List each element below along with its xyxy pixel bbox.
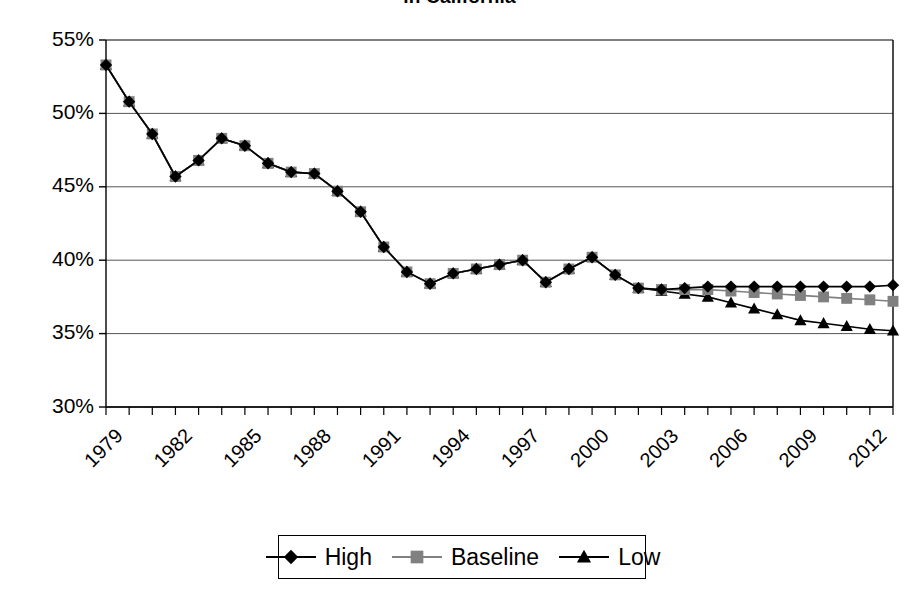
diamond-marker xyxy=(887,279,899,291)
x-axis-tick-label: 1985 xyxy=(219,424,266,471)
x-axis-tick-label: 2003 xyxy=(635,424,682,471)
legend-item-high[interactable]: High xyxy=(264,544,372,571)
square-marker xyxy=(888,296,899,307)
diamond-marker xyxy=(283,550,297,564)
y-axis-tick-label: 50% xyxy=(52,100,94,123)
x-axis-tick-label: 2006 xyxy=(705,424,752,471)
chart-legend: HighBaselineLow xyxy=(278,535,646,579)
square-marker xyxy=(841,293,852,304)
x-axis-tick-label: 1994 xyxy=(427,424,474,471)
legend-item-baseline[interactable]: Baseline xyxy=(390,544,539,571)
diamond-marker xyxy=(817,280,829,292)
y-axis-tick-label: 30% xyxy=(52,394,94,417)
y-axis-tick-label: 55% xyxy=(52,27,94,50)
x-axis-tick-label: 1997 xyxy=(496,424,543,471)
x-axis-tick-label: 1991 xyxy=(358,424,405,471)
x-axis-tick-label: 1979 xyxy=(80,424,127,471)
diamond-marker xyxy=(864,280,876,292)
chart-container: in California 55%50%45%40%35%30%19791982… xyxy=(0,0,919,610)
legend-item-label: Low xyxy=(618,544,660,571)
series-line xyxy=(106,65,893,290)
x-axis-tick-label: 2000 xyxy=(566,424,613,471)
legend-square-icon xyxy=(390,546,444,568)
x-axis-tick-label: 2012 xyxy=(844,424,891,471)
square-marker xyxy=(864,294,875,305)
x-axis-tick-label: 2009 xyxy=(774,424,821,471)
x-axis-tick-label: 1982 xyxy=(149,424,196,471)
x-axis-tick-label: 1988 xyxy=(288,424,335,471)
chart-plot-area: 55%50%45%40%35%30%1979198219851988199119… xyxy=(0,0,919,520)
square-marker xyxy=(818,291,829,302)
legend-item-label: High xyxy=(325,544,372,571)
legend-item-label: Baseline xyxy=(451,544,539,571)
legend-triangle-icon xyxy=(557,546,611,568)
y-axis-tick-label: 35% xyxy=(52,320,94,343)
square-marker xyxy=(411,551,424,564)
legend-item-low[interactable]: Low xyxy=(557,544,660,571)
y-axis-tick-label: 40% xyxy=(52,247,94,270)
y-axis-tick-label: 45% xyxy=(52,173,94,196)
diamond-marker xyxy=(841,280,853,292)
legend-diamond-icon xyxy=(264,546,318,568)
